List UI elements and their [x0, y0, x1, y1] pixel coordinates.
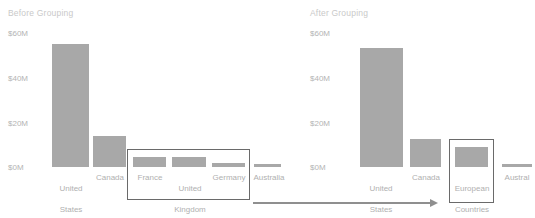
bar-australia-after[interactable]: [502, 164, 532, 167]
x-label-line2: States: [60, 205, 83, 214]
y-tick-60m-after: $60M: [310, 29, 330, 38]
x-label-line2: States: [370, 205, 393, 214]
y-tick-20m-after: $20M: [310, 119, 330, 128]
bar-united-states-before[interactable]: [52, 44, 89, 167]
bar-canada-before[interactable]: [93, 136, 126, 167]
x-label-australia-after: Austral: [496, 173, 535, 184]
y-tick-0m-before: $0M: [8, 163, 24, 172]
transformation-arrow-line: [253, 202, 431, 204]
y-tick-40m-after: $40M: [310, 74, 330, 83]
x-label-australia-before: Australia: [248, 173, 290, 184]
bar-united-states-after[interactable]: [360, 48, 403, 167]
transformation-arrow-head-icon: [430, 199, 438, 207]
x-label-line1: United: [59, 184, 82, 193]
x-label-canada-after: Canada: [405, 173, 447, 184]
figure-canvas: Before Grouping $60M $40M $20M $0M Unite…: [0, 0, 535, 218]
chart-title-before: Before Grouping: [8, 8, 73, 18]
y-tick-0m-after: $0M: [310, 163, 326, 172]
x-label-line2: Countries: [455, 205, 489, 214]
x-label-united-states-before: United States: [48, 173, 94, 215]
y-tick-40m-before: $40M: [8, 74, 28, 83]
bar-canada-after[interactable]: [410, 139, 441, 167]
chart-title-after: After Grouping: [310, 8, 368, 18]
chart-after-grouping: After Grouping $60M $40M $20M $0M United…: [300, 0, 535, 218]
x-label-line1: United: [369, 184, 392, 193]
y-tick-20m-before: $20M: [8, 119, 28, 128]
chart-before-grouping: Before Grouping $60M $40M $20M $0M Unite…: [0, 0, 295, 218]
y-tick-60m-before: $60M: [8, 29, 28, 38]
highlight-box-european-countries-after[interactable]: [449, 139, 494, 203]
highlight-box-european-countries-before[interactable]: [127, 149, 250, 200]
x-label-canada-before: Canada: [90, 173, 130, 184]
bar-australia-before[interactable]: [254, 164, 281, 167]
x-label-line2: Kingdom: [174, 205, 206, 214]
x-label-united-states-after: United States: [356, 173, 406, 215]
